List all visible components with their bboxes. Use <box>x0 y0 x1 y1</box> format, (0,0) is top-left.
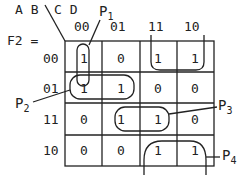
cell: 0 <box>154 82 162 95</box>
group-label-p1: P1 <box>99 5 113 23</box>
cell: 0 <box>80 113 88 126</box>
cell: 1 <box>154 113 162 126</box>
group-label-p4: P4 <box>222 149 236 167</box>
col-variables: C D <box>54 3 77 16</box>
cell: 1 <box>191 52 199 65</box>
group-label-p2: P2 <box>15 97 29 115</box>
cell: 1 <box>80 52 88 65</box>
row-label-10: 10 <box>43 144 59 157</box>
cell: 1 <box>154 144 162 157</box>
cell: 0 <box>117 52 125 65</box>
group-label-p3: P3 <box>218 99 232 117</box>
col-label-10: 10 <box>184 20 200 33</box>
cell: 0 <box>80 144 88 157</box>
cell: 1 <box>117 82 125 95</box>
row-variables: A B <box>15 3 38 16</box>
col-label-11: 11 <box>148 20 164 33</box>
row-label-00: 00 <box>43 52 59 65</box>
row-label-11: 11 <box>43 113 59 126</box>
cell: 1 <box>117 113 125 126</box>
cell: 1 <box>154 52 162 65</box>
row-label-01: 01 <box>43 82 59 95</box>
cell: 0 <box>191 82 199 95</box>
cell: 1 <box>80 82 88 95</box>
cell: 0 <box>191 113 199 126</box>
function-title: F2 = <box>7 34 38 47</box>
cell: 0 <box>117 144 125 157</box>
col-label-00: 00 <box>74 20 90 33</box>
cell: 1 <box>191 144 199 157</box>
